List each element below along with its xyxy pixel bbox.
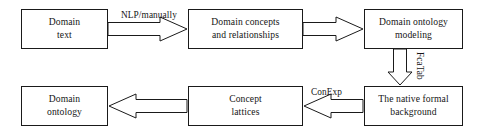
node-domain-ontology: Domain ontology — [21, 86, 108, 126]
node-concept-lattices: Concept lattices — [188, 86, 303, 126]
node-domain-ontology-modeling: Domain ontology modeling — [364, 9, 463, 49]
node-native-formal-background-label: The native formal background — [375, 93, 451, 118]
node-domain-ontology-modeling-label: Domain ontology modeling — [376, 16, 451, 41]
flowchart-diagram: Domain text Domain concepts and relation… — [0, 0, 481, 134]
node-domain-text-label: Domain text — [46, 16, 84, 41]
arrow-modeling-to-background — [388, 49, 412, 85]
node-domain-concepts-label: Domain concepts and relationships — [208, 16, 282, 41]
arrow-lattices-to-ontology — [109, 94, 187, 118]
node-domain-ontology-label: Domain ontology — [44, 93, 85, 118]
edge-label-nlp-manually: NLP/manually — [121, 11, 177, 20]
arrow-background-to-lattices — [304, 94, 363, 118]
node-native-formal-background: The native formal background — [364, 86, 463, 126]
arrow-concepts-to-modeling — [303, 17, 363, 41]
arrow-text-to-concepts — [108, 17, 187, 41]
node-domain-text: Domain text — [21, 9, 108, 49]
node-domain-concepts: Domain concepts and relationships — [188, 9, 303, 49]
edge-label-fcatab: FcaTab — [415, 52, 424, 80]
edge-label-conexp: ConExp — [311, 88, 342, 97]
node-concept-lattices-label: Concept lattices — [226, 93, 265, 118]
